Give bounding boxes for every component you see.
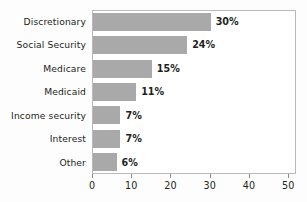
table-row: Interest 7%: [0, 127, 307, 150]
value-label: 15%: [157, 57, 180, 80]
bar-other: [93, 153, 117, 171]
bar-social-security: [93, 36, 187, 54]
value-label: 6%: [122, 151, 138, 174]
category-label: Medicare: [0, 57, 86, 80]
category-label: Income security: [0, 104, 86, 127]
x-tick-mark: [210, 174, 211, 178]
bar-discretionary: [93, 13, 211, 31]
bar-chart: Discretionary 30% Social Security 24% Me…: [0, 0, 307, 202]
x-tick-label: 30: [195, 180, 225, 191]
bar-rows: Discretionary 30% Social Security 24% Me…: [0, 10, 307, 174]
x-tick-label: 0: [77, 180, 107, 191]
table-row: Other 6%: [0, 151, 307, 174]
x-tick-label: 40: [234, 180, 264, 191]
category-label: Other: [0, 151, 86, 174]
bar-medicare: [93, 60, 152, 78]
x-tick-mark: [288, 174, 289, 178]
bar-medicaid: [93, 83, 136, 101]
table-row: Discretionary 30%: [0, 10, 307, 33]
x-tick-mark: [92, 174, 93, 178]
x-tick-mark: [170, 174, 171, 178]
x-axis: 01020304050: [92, 174, 296, 202]
category-label: Medicaid: [0, 80, 86, 103]
bar-interest: [93, 130, 120, 148]
table-row: Medicare 15%: [0, 57, 307, 80]
category-label: Discretionary: [0, 10, 86, 33]
value-label: 30%: [216, 10, 239, 33]
x-tick-label: 50: [273, 180, 303, 191]
value-label: 7%: [125, 104, 141, 127]
category-label: Interest: [0, 127, 86, 150]
category-label: Social Security: [0, 33, 86, 56]
value-label: 24%: [192, 33, 215, 56]
x-tick-label: 10: [116, 180, 146, 191]
table-row: Income security 7%: [0, 104, 307, 127]
x-tick-label: 20: [155, 180, 185, 191]
x-tick-mark: [131, 174, 132, 178]
table-row: Medicaid 11%: [0, 80, 307, 103]
table-row: Social Security 24%: [0, 33, 307, 56]
bar-income-security: [93, 106, 120, 124]
value-label: 7%: [125, 127, 141, 150]
value-label: 11%: [141, 80, 164, 103]
x-tick-mark: [249, 174, 250, 178]
